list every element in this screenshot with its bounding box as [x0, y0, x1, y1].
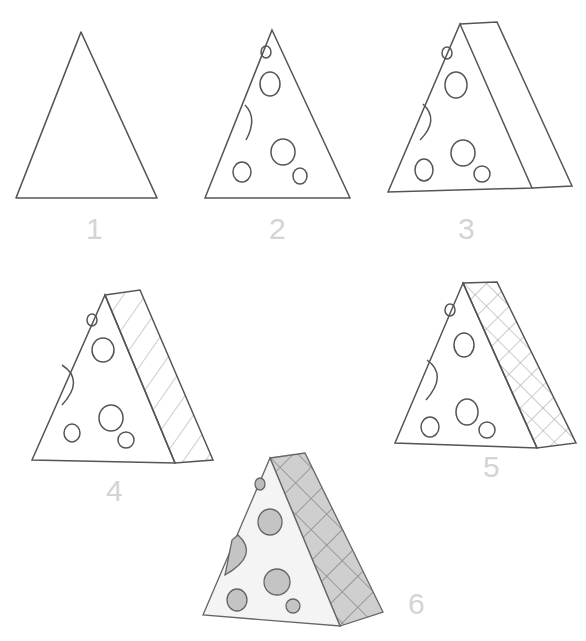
step-label-4: 4: [106, 474, 123, 508]
step-4-drawing: [32, 290, 213, 463]
step-1-drawing: [16, 32, 157, 198]
step-5-drawing: [395, 282, 576, 448]
step-label-6: 6: [408, 587, 425, 621]
step-label-5: 5: [483, 450, 500, 484]
step-6-drawing: [203, 453, 383, 626]
step-label-2: 2: [269, 212, 286, 246]
step-label-3: 3: [458, 212, 475, 246]
step-3-drawing: [388, 22, 572, 192]
step-2-drawing: [205, 30, 350, 198]
cheese-drawing-tutorial: [0, 0, 586, 641]
step-label-1: 1: [86, 212, 103, 246]
